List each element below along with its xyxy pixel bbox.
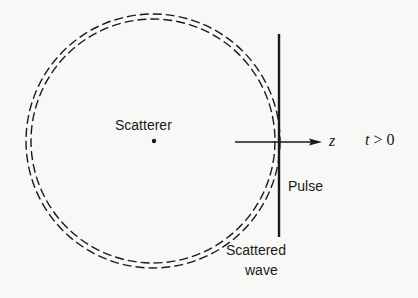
pulse-label: Pulse (288, 178, 323, 194)
scattering-diagram: Scatterer z t > 0 Pulse Scattered wave (0, 0, 418, 298)
time-condition-label: t > 0 (365, 131, 394, 149)
scatterer-label: Scatterer (115, 117, 172, 133)
scattered-wave-label-line2: wave (245, 262, 278, 278)
z-axis-label: z (329, 132, 335, 150)
time-inequality: > 0 (369, 131, 394, 148)
scattered-wave-label-line1: Scattered (226, 242, 286, 258)
scatterer-point (152, 139, 156, 143)
diagram-canvas (0, 0, 418, 298)
